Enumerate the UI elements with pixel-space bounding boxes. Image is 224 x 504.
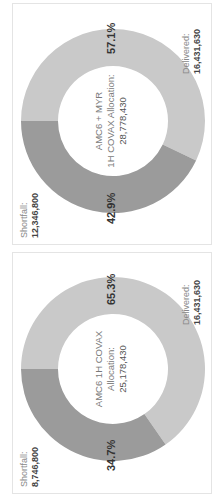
label-delivered-name: Delivered: (181, 33, 191, 74)
label-delivered: Delivered: 16,431,630 (181, 29, 203, 74)
center-title-line1: AMC6 1H COVAX (93, 319, 105, 419)
pct-shortfall: 42.9% (105, 193, 117, 224)
label-shortfall-value: 8,746,800 (30, 447, 41, 487)
center-title-line1: AMC6 + MYR (93, 71, 105, 171)
label-delivered-value: 16,431,630 (192, 29, 203, 74)
label-shortfall-name: Shortfall: (19, 202, 29, 238)
chart-panel-amc6: AMC6 1H COVAX Allocation: 25,178,430 65.… (12, 252, 212, 494)
center-value: 25,178,430 (117, 319, 129, 419)
label-shortfall: Shortfall: 12,346,800 (19, 193, 41, 238)
pct-delivered: 65.3% (105, 274, 117, 305)
center-value: 28,778,430 (117, 71, 129, 171)
pct-shortfall: 34.7% (105, 440, 117, 471)
center-label-amc6-myr: AMC6 + MYR 1H COVAX Allocation: 28,778,4… (93, 71, 129, 171)
center-title-line2: Allocation: (105, 319, 117, 419)
label-shortfall-name: Shortfall: (19, 451, 29, 487)
label-delivered-value: 16,431,630 (192, 280, 203, 325)
label-delivered: Delivered: 16,431,630 (181, 280, 203, 325)
label-shortfall-value: 12,346,800 (30, 193, 41, 238)
label-delivered-name: Delivered: (181, 284, 191, 325)
pct-delivered: 57.1% (105, 23, 117, 54)
center-title-line2: 1H COVAX Allocation: (105, 71, 117, 171)
label-shortfall: Shortfall: 8,746,800 (19, 447, 41, 487)
chart-panel-amc6-myr: AMC6 + MYR 1H COVAX Allocation: 28,778,4… (12, 3, 212, 245)
charts-stage: AMC6 1H COVAX Allocation: 25,178,430 65.… (0, 0, 224, 504)
center-label-amc6: AMC6 1H COVAX Allocation: 25,178,430 (93, 319, 129, 419)
